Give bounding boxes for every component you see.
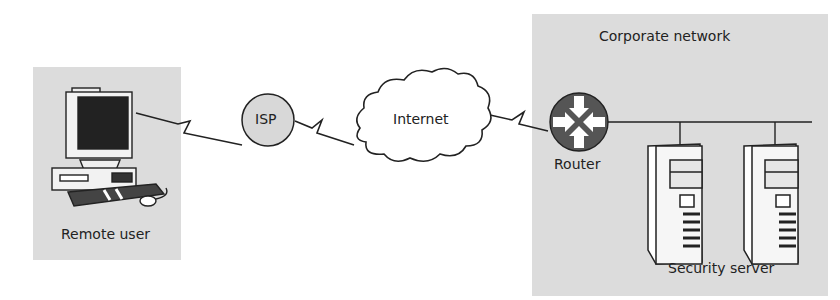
router-label: Router: [554, 156, 600, 172]
server-icon-1: [648, 144, 702, 264]
isp-label: ISP: [255, 111, 276, 127]
diagram-canvas: [0, 0, 840, 300]
corporate-network-label: Corporate network: [599, 28, 730, 44]
link-remote-isp: [136, 113, 242, 145]
link-isp-internet: [295, 120, 354, 145]
link-internet-router: [490, 112, 548, 131]
computer-icon: [52, 88, 167, 206]
remote-user-label: Remote user: [61, 226, 150, 242]
server-icon-2: [744, 144, 798, 264]
router-icon: [550, 93, 608, 151]
internet-label: Internet: [393, 111, 449, 127]
security-server-label: Security server: [668, 260, 774, 276]
